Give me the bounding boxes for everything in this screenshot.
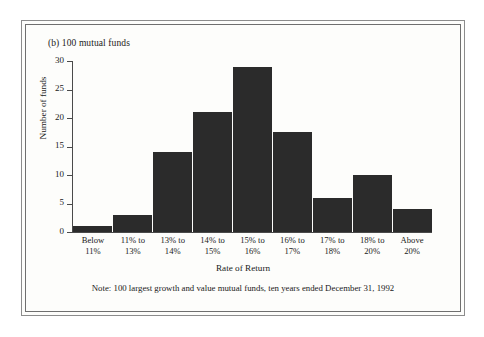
plot-area: 051015202530	[72, 61, 432, 232]
y-tick-label: 10	[55, 169, 64, 179]
x-tick-label-line: 11%	[73, 246, 113, 257]
x-tick-label-line: 14% to	[193, 235, 233, 246]
page-canvas: (b) 100 mutual funds Number of funds 051…	[0, 0, 484, 337]
x-tick-label-line: 20%	[392, 246, 432, 257]
y-tick-label: 25	[55, 83, 64, 93]
y-tick-label: 30	[55, 55, 64, 65]
bar	[393, 209, 432, 232]
x-tick-label-line: 18%	[312, 246, 352, 257]
x-tick-label-line: 15%	[193, 246, 233, 257]
x-tick-label: 14% to15%	[193, 235, 233, 257]
x-tick-label: 16% to17%	[272, 235, 312, 257]
bar	[313, 198, 353, 232]
x-axis-tick-labels: Below11%11% to13%13% to14%14% to15%15% t…	[73, 235, 432, 257]
bar	[73, 226, 113, 232]
x-tick-label: Above20%	[392, 235, 432, 257]
x-tick-label-line: 15% to	[233, 235, 273, 246]
x-tick-label: 11% to13%	[113, 235, 153, 257]
bar	[153, 152, 193, 232]
x-axis-line	[72, 232, 432, 233]
panel-title: (b) 100 mutual funds	[48, 38, 130, 48]
bar	[233, 67, 273, 232]
y-tick: 10	[67, 175, 72, 176]
y-tick: 25	[67, 90, 72, 91]
y-tick: 0	[67, 232, 72, 233]
x-tick-label-line: 17% to	[312, 235, 352, 246]
x-tick-label-line: 14%	[153, 246, 193, 257]
y-tick: 30	[67, 61, 72, 62]
x-tick-label-line: 13%	[113, 246, 153, 257]
x-tick-label-line: Above	[392, 235, 432, 246]
x-tick-label-line: 11% to	[113, 235, 153, 246]
bar-series	[73, 61, 432, 232]
bar	[273, 132, 313, 232]
x-tick-label: 15% to16%	[233, 235, 273, 257]
x-tick-label: Below11%	[73, 235, 113, 257]
x-tick-label-line: 16% to	[272, 235, 312, 246]
y-tick-label: 5	[60, 197, 65, 207]
y-tick-label: 15	[55, 140, 64, 150]
x-tick-label: 17% to18%	[312, 235, 352, 257]
x-tick-label: 13% to14%	[153, 235, 193, 257]
x-tick-label-line: 13% to	[153, 235, 193, 246]
x-tick-label-line: 16%	[233, 246, 273, 257]
figure-note: Note: 100 largest growth and value mutua…	[26, 283, 460, 293]
x-axis-title: Rate of Return	[26, 263, 460, 273]
x-tick-label: 18% to20%	[352, 235, 392, 257]
y-tick-label: 0	[60, 226, 65, 236]
x-tick-label-line: 20%	[352, 246, 392, 257]
bar	[193, 112, 233, 232]
bar	[353, 175, 393, 232]
x-tick-label-line: 17%	[272, 246, 312, 257]
histogram-figure: (b) 100 mutual funds Number of funds 051…	[26, 25, 460, 311]
y-tick: 5	[67, 204, 72, 205]
y-axis-title: Number of funds	[38, 48, 48, 168]
y-tick: 20	[67, 118, 72, 119]
y-tick: 15	[67, 147, 72, 148]
x-tick-label-line: Below	[73, 235, 113, 246]
x-tick-label-line: 18% to	[352, 235, 392, 246]
bar	[113, 215, 153, 232]
y-tick-label: 20	[55, 112, 64, 122]
